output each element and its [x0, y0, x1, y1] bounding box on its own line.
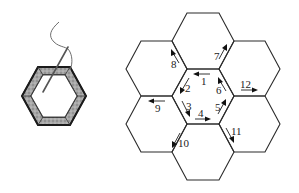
step-label-7: 7	[214, 50, 220, 62]
hex-upper-left	[126, 41, 187, 96]
hex-top	[172, 13, 234, 69]
step-label-4: 4	[198, 107, 204, 119]
step-label-1: 1	[201, 75, 207, 87]
step-label-2: 2	[185, 82, 191, 94]
hexagon-rosette	[126, 13, 280, 180]
hex-bottom	[172, 124, 234, 180]
step-label-12: 12	[240, 78, 251, 90]
folded-hexagon	[22, 67, 86, 125]
hex-lower-right	[219, 96, 280, 152]
step-label-5: 5	[215, 101, 221, 113]
hexagon-stitching-diagram: 1 2 3 4 5 6 7 8 9 10 11 12	[0, 0, 299, 193]
step-label-3: 3	[186, 100, 192, 112]
step-labels: 1 2 3 4 5 6 7 8 9 10 11 12	[155, 50, 251, 149]
step-label-8: 8	[171, 58, 177, 70]
step-label-11: 11	[231, 125, 242, 137]
step-label-6: 6	[216, 84, 222, 96]
step-label-10: 10	[178, 137, 190, 149]
step-label-9: 9	[155, 102, 161, 114]
